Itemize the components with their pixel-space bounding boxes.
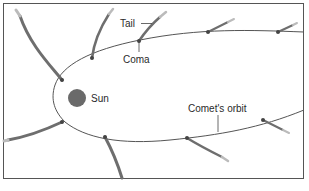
comet-4 [206,19,234,34]
sun-label: Sun [91,93,109,104]
orbit-label: Comet's orbit [188,103,247,114]
comet-8 [185,136,228,161]
diagram-frame [4,4,304,179]
sun-icon [68,89,86,107]
comet-orbit-diagram: Sun Ta [0,0,309,191]
comet-2 [90,9,113,60]
comet-6 [4,120,64,141]
tail-label: Tail [120,18,135,29]
comet-7 [103,135,122,178]
coma-label: Coma [123,54,150,65]
comet-5 [276,23,297,34]
comet-1 [16,10,64,82]
comet-orbit-path [53,30,304,141]
